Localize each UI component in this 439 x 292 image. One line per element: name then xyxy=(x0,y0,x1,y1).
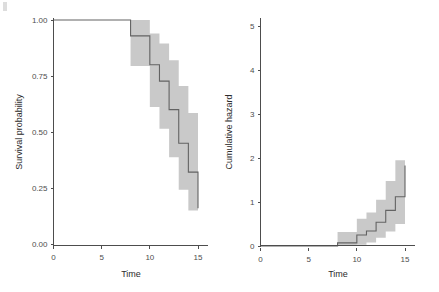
y-tick-label: 1.00 xyxy=(32,16,48,25)
survival-probability-plot: 0.000.250.500.751.00 Survival probabilit… xyxy=(0,0,220,292)
confidence-band xyxy=(54,20,199,231)
y-tick-group: 012345 xyxy=(250,22,260,251)
ci-band-group-right xyxy=(261,118,406,246)
x-axis-left: 051015 Time xyxy=(51,246,208,280)
x-tick-label: 15 xyxy=(194,253,203,262)
y-axis-title: Cumulative hazard xyxy=(224,94,234,169)
y-tick-label: 2 xyxy=(250,154,255,163)
x-tick-label: 10 xyxy=(145,253,154,262)
y-axis-right: 012345 Cumulative hazard xyxy=(224,18,261,251)
x-tick-label: 5 xyxy=(306,255,311,264)
confidence-band xyxy=(261,118,406,246)
y-tick-label: 0.75 xyxy=(32,72,48,81)
y-tick-label: 5 xyxy=(250,22,255,31)
cumulative-hazard-panel: 012345 Cumulative hazard 051015 Time xyxy=(219,0,439,292)
cumulative-hazard-plot: 012345 Cumulative hazard 051015 Time xyxy=(219,0,439,292)
x-axis-title: Time xyxy=(328,269,348,279)
y-axis-left: 0.000.250.500.751.00 Survival probabilit… xyxy=(14,16,54,249)
y-tick-group: 0.000.250.500.751.00 xyxy=(32,16,54,249)
y-tick-label: 1 xyxy=(250,198,255,207)
ci-band-group-left xyxy=(54,20,199,231)
y-axis-title: Survival probability xyxy=(14,94,24,170)
survival-probability-panel: 0.000.250.500.751.00 Survival probabilit… xyxy=(0,0,220,292)
survival-figure: 0.000.250.500.751.00 Survival probabilit… xyxy=(0,0,439,292)
x-tick-label: 0 xyxy=(51,253,56,262)
x-tick-label: 10 xyxy=(352,255,361,264)
y-tick-label: 3 xyxy=(250,110,255,119)
x-tick-group: 051015 xyxy=(258,248,410,264)
x-tick-label: 0 xyxy=(258,255,263,264)
y-tick-label: 0 xyxy=(250,242,255,251)
y-tick-label: 0.50 xyxy=(32,128,48,137)
x-tick-group: 051015 xyxy=(51,246,203,262)
x-tick-label: 5 xyxy=(99,253,104,262)
x-tick-label: 15 xyxy=(401,255,410,264)
y-tick-label: 4 xyxy=(250,66,255,75)
y-tick-label: 0.00 xyxy=(32,240,48,249)
x-axis-title: Time xyxy=(121,269,141,279)
x-axis-right: 051015 Time xyxy=(258,246,415,280)
y-tick-label: 0.25 xyxy=(32,184,48,193)
